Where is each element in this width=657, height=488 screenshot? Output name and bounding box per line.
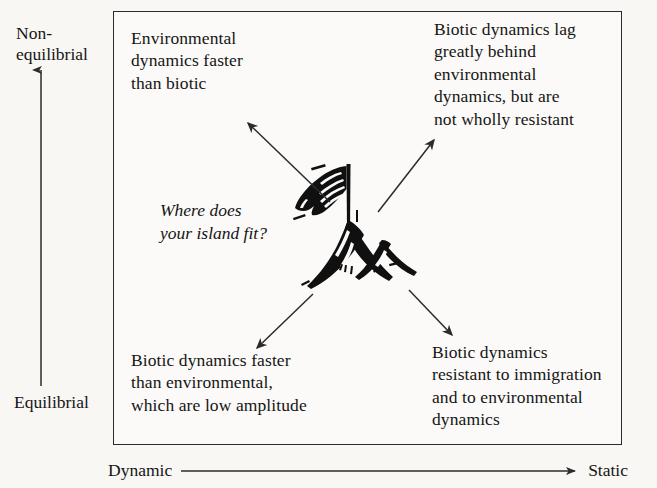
x-axis-label-start: Dynamic — [108, 460, 172, 481]
y-axis-label-top: Non- equilibrial — [16, 23, 112, 65]
island-dynamics-diagram: Non- equilibrial Equilibrial Environment… — [0, 0, 657, 488]
x-axis-label-end: Static — [588, 460, 628, 481]
x-axis: Dynamic Static — [108, 455, 628, 485]
quadrant-label-top-left: Environmental dynamics faster than bioti… — [131, 27, 321, 94]
quadrant-label-top-right: Biotic dynamics lag greatly behind envir… — [434, 18, 630, 130]
quadrant-label-bottom-left: Biotic dynamics faster than environmenta… — [131, 349, 371, 416]
y-axis-arrow — [0, 0, 113, 460]
y-axis-label-bottom: Equilibrial — [14, 392, 89, 413]
mountain-with-flag-icon — [281, 158, 421, 296]
x-axis-arrow — [179, 464, 581, 478]
quadrant-label-bottom-right: Biotic dynamics resistant to immigration… — [432, 341, 632, 431]
